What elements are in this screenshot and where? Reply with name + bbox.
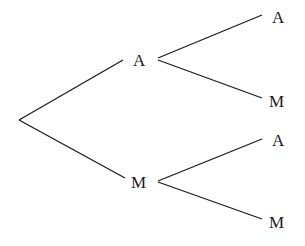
node-level2-A-M: M	[269, 93, 284, 110]
node-level2-A-A: A	[272, 9, 284, 26]
edge-A-A	[158, 15, 262, 58]
edge-root-M	[19, 120, 125, 178]
edge-root-A	[19, 60, 123, 120]
node-level1-A: A	[133, 52, 145, 69]
edge-A-M	[158, 60, 262, 98]
edge-M-M	[158, 182, 262, 219]
node-level2-M-A: A	[272, 132, 284, 149]
node-level2-M-M: M	[269, 214, 284, 231]
edge-M-A	[158, 139, 262, 181]
node-level1-M: M	[131, 174, 146, 191]
tree-edges	[0, 0, 305, 246]
